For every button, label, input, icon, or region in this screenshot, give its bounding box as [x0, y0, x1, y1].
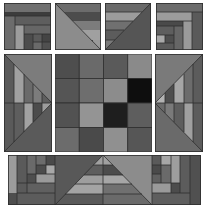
- grid-cell: [55, 128, 79, 153]
- grid-cell: [55, 103, 79, 128]
- bottom-border-strip: [8, 155, 201, 205]
- log-cabin-block: [4, 3, 51, 50]
- side-triangle-block-right: [155, 54, 203, 152]
- quilt-block-top-3: [105, 3, 151, 50]
- grid-cell: [128, 79, 152, 104]
- grid-cell: [128, 54, 152, 79]
- quilt-block-middle-left: [4, 54, 52, 152]
- grid-cell: [104, 103, 128, 128]
- stripe-triangle-block: [55, 3, 101, 50]
- quilt-block-bottom: [8, 155, 201, 205]
- grid-cell: [79, 128, 103, 153]
- quilt-block-center: [55, 54, 152, 152]
- quilt-block-top-2: [55, 3, 101, 50]
- grid-cell: [79, 103, 103, 128]
- quilt-block-top-4: [156, 3, 203, 50]
- quilt-block-middle-right: [155, 54, 203, 152]
- grid-cell: [79, 79, 103, 104]
- grid-cell: [104, 128, 128, 153]
- grid-cell: [128, 128, 152, 153]
- side-triangle-block-left: [4, 54, 52, 152]
- stripe-triangle-block-mirrored: [105, 3, 151, 50]
- grid-cell: [104, 79, 128, 104]
- log-cabin-block-mirrored: [156, 3, 203, 50]
- quilt-block-top-1: [4, 3, 51, 50]
- grid-cell: [128, 103, 152, 128]
- grid-cell: [55, 54, 79, 79]
- center-4x4-grid: [55, 54, 152, 152]
- grid-cell: [104, 54, 128, 79]
- grid-cell: [79, 54, 103, 79]
- grid-cell: [55, 79, 79, 104]
